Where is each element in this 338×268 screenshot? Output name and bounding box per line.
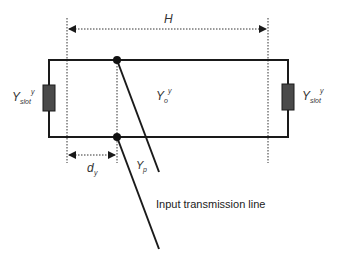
- width-dimension-label: H: [164, 12, 173, 26]
- left-slot-admittance-box: [43, 85, 55, 111]
- slot-line-diagram: H Y slot y Y slot y Y o y Y p d y Input …: [0, 0, 338, 268]
- top-feed-node: [113, 56, 121, 64]
- svg-text:d: d: [87, 161, 94, 175]
- right-slot-label: Y slot y: [302, 87, 324, 104]
- svg-text:y: y: [30, 88, 35, 96]
- svg-text:slot: slot: [310, 97, 322, 104]
- line-admittance-label: Y o y: [156, 87, 172, 104]
- svg-text:y: y: [93, 169, 98, 177]
- svg-text:y: y: [319, 87, 324, 95]
- right-slot-admittance-box: [282, 84, 294, 110]
- left-slot-label: Y slot y: [12, 88, 35, 105]
- offset-dimension-label: d y: [87, 161, 98, 177]
- svg-text:p: p: [142, 166, 147, 174]
- svg-text:y: y: [167, 87, 172, 95]
- bottom-feed-node: [113, 133, 121, 141]
- svg-text:slot: slot: [20, 98, 32, 105]
- svg-text:o: o: [164, 97, 168, 104]
- input-transmission-line-label: Input transmission line: [156, 198, 265, 210]
- probe-admittance-label: Y p: [136, 159, 147, 174]
